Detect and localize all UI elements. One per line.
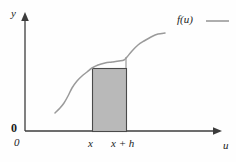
x-tick-label-x: x — [88, 138, 93, 149]
shaded-rectangle — [93, 69, 127, 132]
x-tick-label-x-plus-h: x + h — [111, 138, 134, 149]
x-axis-arrowhead — [213, 127, 222, 134]
origin-label-y: 0 — [11, 122, 17, 134]
y-axis-label: y — [11, 8, 16, 19]
y-axis-arrowhead — [21, 12, 29, 21]
origin-label-x: 0 — [14, 137, 20, 148]
x-axis-label: u — [223, 140, 229, 151]
legend-label-fu: f(u) — [177, 14, 193, 25]
y-axis — [21, 12, 29, 131]
calculus-figure: y u 0 0 x x + h f(u) — [0, 0, 236, 162]
